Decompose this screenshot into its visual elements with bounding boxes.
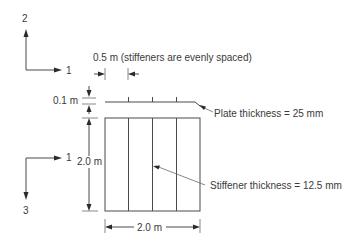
axis-3-arrowhead-icon [24, 192, 29, 200]
plate-length-label: 2.0 m [77, 156, 102, 167]
arrow-up-icon [87, 105, 92, 112]
plate-length-dimension: 2.0 m [77, 118, 102, 211]
axis-1-label: 1 [66, 65, 72, 76]
plate-edge-view [105, 97, 200, 106]
arrow-down-icon [87, 204, 92, 211]
stiffener-height-dimension: 0.1 m [53, 86, 96, 114]
arrow-right-icon [193, 225, 200, 230]
stiffener-spacing-label: 0.5 m (stiffeners are evenly spaced) [93, 52, 252, 63]
axis-1-arrowhead-icon [54, 68, 62, 73]
axis-2-arrowhead-icon [24, 29, 29, 37]
stiffened-plate-diagram: 2 1 1 3 0.5 m (stiffeners are evenly spa… [0, 0, 362, 248]
arrow-up-icon [87, 118, 92, 125]
axis-2-label: 2 [22, 13, 28, 24]
stiffener-height-label: 0.1 m [53, 95, 78, 106]
stiffener-thickness-label: Stiffener thickness = 12.5 mm [210, 180, 342, 191]
leader-arrow-icon [199, 105, 206, 110]
arrow-left-icon [105, 225, 112, 230]
stiffener-thickness-callout: Stiffener thickness = 12.5 mm [153, 166, 342, 192]
plate-thickness-label: Plate thickness = 25 mm [214, 108, 323, 119]
arrow-down-icon [87, 90, 92, 97]
side-axes: 1 3 [23, 152, 72, 216]
axis-1-arrowhead-icon [54, 156, 62, 161]
plate-thickness-callout: Plate thickness = 25 mm [199, 105, 323, 119]
plate-line-end [195, 102, 200, 106]
plate-width-dimension: 2.0 m [105, 219, 200, 233]
leader-arrow-icon [153, 166, 160, 170]
top-axes: 2 1 [22, 13, 72, 76]
axis-3-label: 3 [23, 205, 29, 216]
spacing-dimension: 0.5 m (stiffeners are evenly spaced) [93, 52, 252, 80]
plate-plan-view [105, 118, 200, 211]
arrow-right-icon [98, 72, 105, 77]
plate-width-label: 2.0 m [137, 222, 162, 233]
leader-line [156, 166, 205, 185]
axis-1-label: 1 [66, 152, 72, 163]
arrow-left-icon [128, 72, 135, 77]
